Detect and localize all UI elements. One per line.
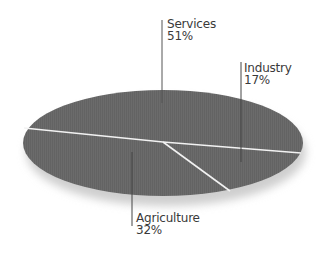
pie-body — [23, 90, 303, 196]
label-industry-pct: 17% — [244, 74, 292, 86]
label-industry: Industry 17% — [244, 62, 292, 86]
label-services: Services 51% — [167, 18, 216, 42]
label-agriculture-pct: 32% — [136, 224, 200, 236]
label-services-pct: 51% — [167, 30, 216, 42]
label-agriculture: Agriculture 32% — [136, 212, 200, 236]
